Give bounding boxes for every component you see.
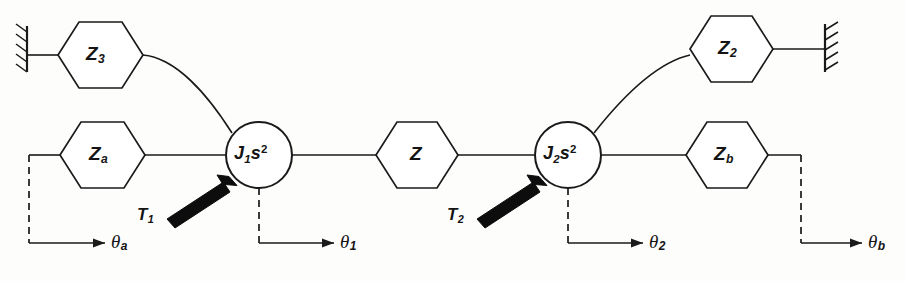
displacement-label-theta-2: θ2 <box>649 231 665 253</box>
diagram-canvas <box>0 0 906 281</box>
link-Z3-to-J1 <box>143 55 232 133</box>
torque-T2-arrow <box>477 175 547 228</box>
displacement-theta-1-path <box>259 188 334 248</box>
torque-label-T1: T1 <box>137 205 154 225</box>
displacement-label-theta-a: θa <box>111 231 127 253</box>
displacement-label-theta-1: θ1 <box>340 231 356 253</box>
impedance-label-Z2: Z2 <box>718 37 737 60</box>
impedance-label-Z3: Z3 <box>86 43 105 66</box>
link-J2-to-Z2 <box>594 55 690 133</box>
impedance-label-Z: Z <box>410 143 422 166</box>
impedance-label-Za: Za <box>89 143 108 166</box>
torque-T1-arrow <box>167 175 237 228</box>
wall-right-support <box>825 22 838 72</box>
inertia-label-J2: J2s2 <box>543 143 576 165</box>
wall-left-support <box>16 24 58 72</box>
displacement-theta-b-path <box>801 155 862 248</box>
displacement-label-theta-b: θb <box>868 231 885 253</box>
displacement-theta-2-path <box>568 188 643 248</box>
inertia-label-J1: J1s2 <box>234 143 267 165</box>
torque-label-T2: T2 <box>447 205 464 225</box>
impedance-label-Zb: Zb <box>714 143 733 166</box>
mechanical-network-diagram: Z3 Za Z Z2 Zb J1s2 J2s2 T1 T2 θa θ1 θ2 θ… <box>0 0 906 281</box>
